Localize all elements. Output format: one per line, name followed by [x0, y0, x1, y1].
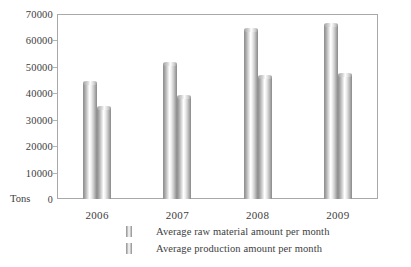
x-axis-tick-label: 2007 [166, 209, 189, 221]
bar-cap [244, 28, 258, 32]
bar [338, 75, 352, 199]
y-axis: 700006000050000400003000020000100000 [0, 0, 53, 267]
plot-area [57, 14, 378, 199]
bar [177, 97, 191, 199]
legend-swatch-icon [126, 243, 132, 254]
bar-chart-figure: 700006000050000400003000020000100000 Ton… [0, 0, 411, 267]
bar [83, 83, 97, 199]
y-axis-unit-label: Tons [10, 193, 30, 204]
y-axis-tick-label: 50000 [26, 61, 53, 72]
chart-legend: Average raw material amount per month Av… [126, 225, 329, 255]
y-axis-tick-label: 10000 [26, 167, 53, 178]
bar [258, 77, 272, 199]
bar-cap [338, 73, 352, 77]
bar-cap [324, 23, 338, 27]
y-axis-tick-label: 70000 [26, 9, 53, 20]
legend-item: Average raw material amount per month [126, 225, 329, 238]
x-axis-tick-label: 2008 [246, 209, 269, 221]
bar-cap [258, 75, 272, 79]
bar [324, 25, 338, 199]
legend-item: Average production amount per month [126, 242, 329, 255]
bar [244, 30, 258, 199]
y-axis-tick-label: 20000 [26, 141, 53, 152]
legend-item-label: Average production amount per month [156, 243, 322, 254]
y-axis-tick-label: 30000 [26, 114, 53, 125]
legend-item-label: Average raw material amount per month [156, 226, 329, 237]
y-axis-tick-label: 40000 [26, 88, 53, 99]
bar-cap [97, 106, 111, 110]
legend-swatch-icon [126, 226, 132, 237]
y-axis-tick-label: 0 [48, 194, 53, 205]
y-axis-tick-label: 60000 [26, 35, 53, 46]
x-axis-tick-label: 2009 [326, 209, 349, 221]
bar [163, 64, 177, 199]
bar-cap [83, 81, 97, 85]
bar-cap [177, 95, 191, 99]
bar-cap [163, 62, 177, 66]
x-axis-tick-label: 2006 [86, 209, 109, 221]
bar [97, 108, 111, 199]
